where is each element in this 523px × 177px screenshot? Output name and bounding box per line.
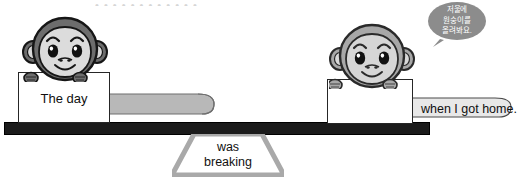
fulcrum-support: was breaking <box>172 134 284 177</box>
speech-bubble-line3: 올려봐요. <box>427 26 487 37</box>
activity-canvas: • • • • • • • • • • • • when I got home.… <box>0 0 523 177</box>
left-sign-text: The day <box>19 90 109 105</box>
speech-bubble-text: 저울에 원숭이를 올려봐요. <box>427 5 487 37</box>
speech-bubble-line1: 저울에 <box>427 5 487 16</box>
right-tail-text: when I got home. <box>421 102 513 117</box>
left-tail-bar <box>106 76 224 118</box>
monkey-light-icon <box>329 23 415 89</box>
speech-bubble: 저울에 원숭이를 올려봐요. <box>427 1 487 48</box>
right-tail-bar: when I got home. <box>409 85 520 122</box>
speech-bubble-line2: 원숭이를 <box>427 16 487 27</box>
cutoff-text-strip: • • • • • • • • • • • • <box>95 0 280 6</box>
monkey-dark-icon <box>22 16 108 82</box>
